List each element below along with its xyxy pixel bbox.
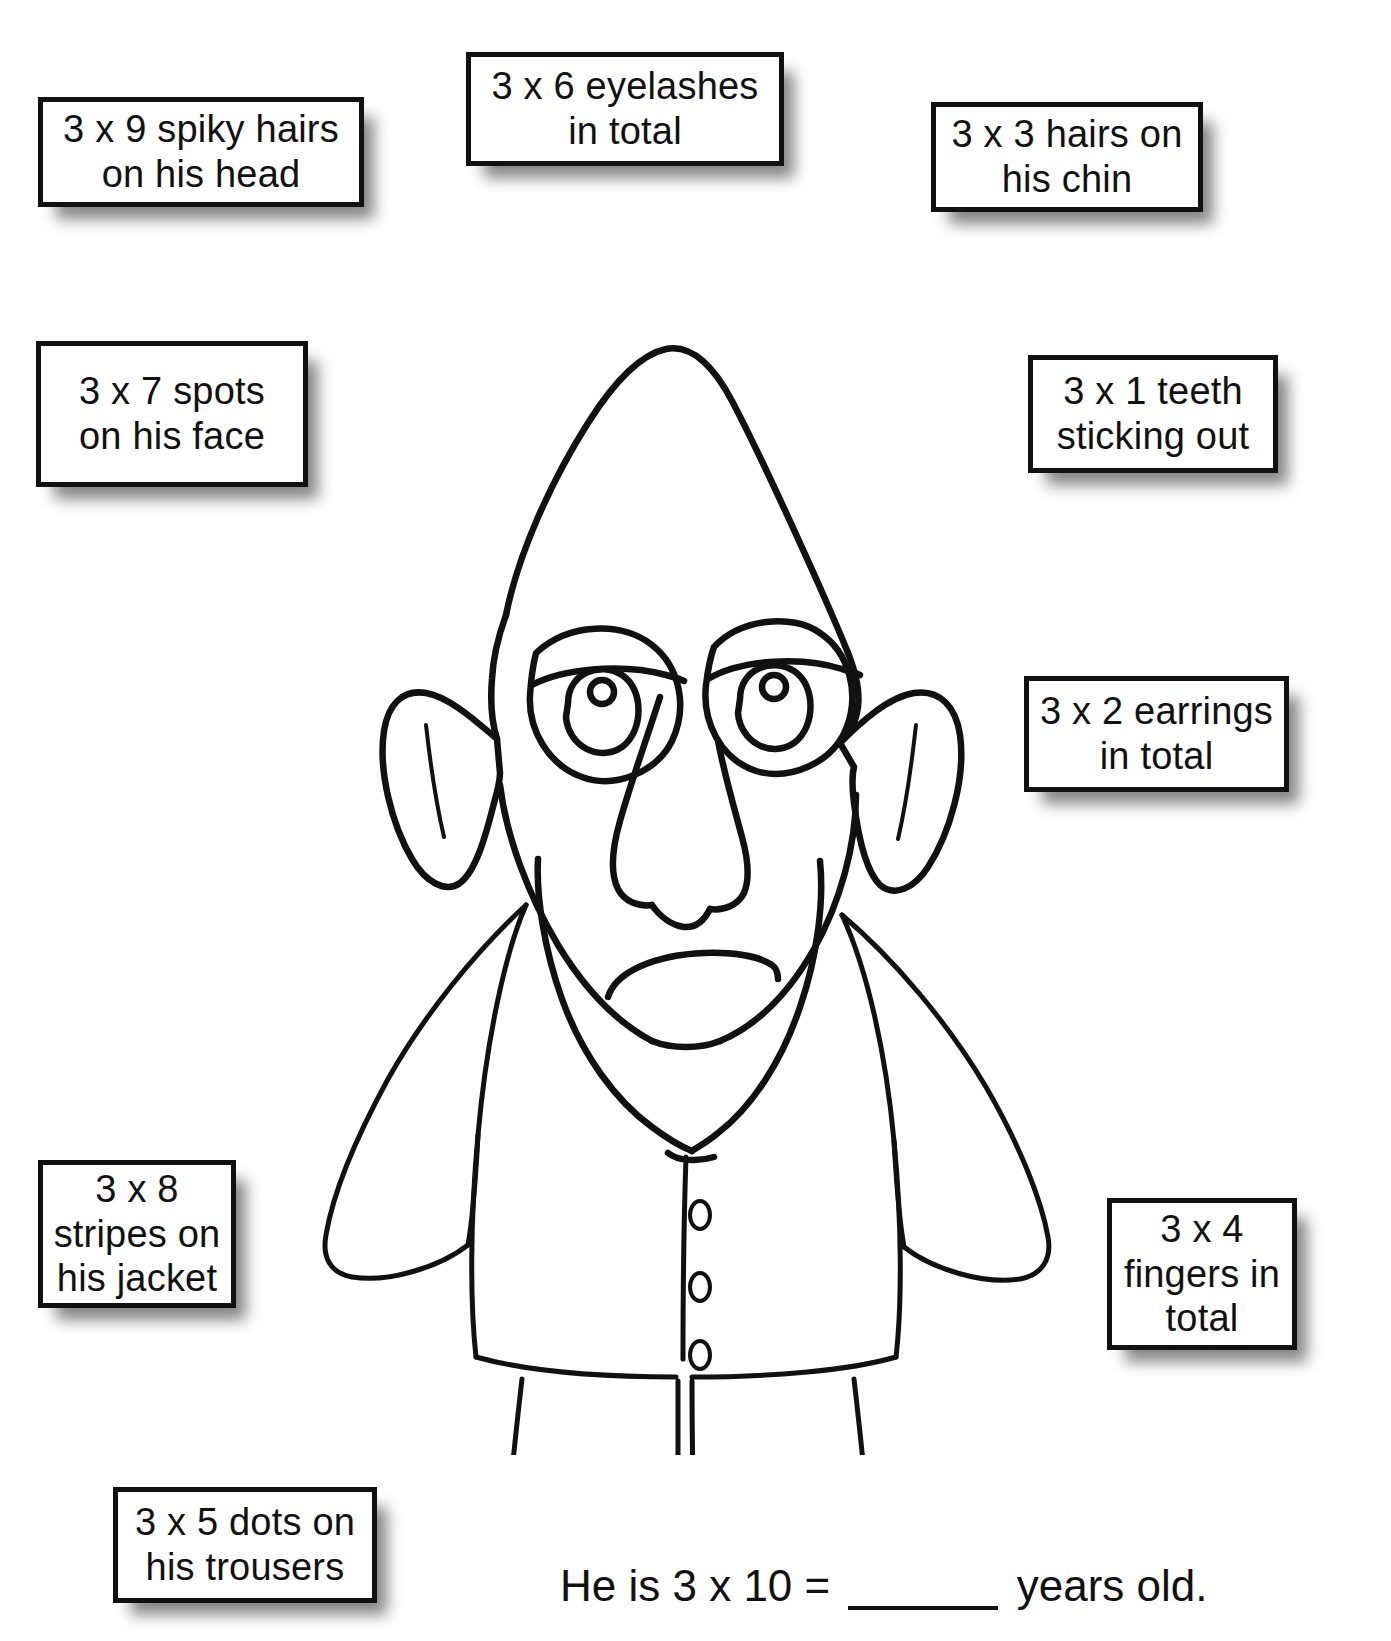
label-earrings: 3 x 2 earrings in total [1024,676,1289,792]
trouser-right-inner [692,1381,696,1455]
label-fingers-text: 3 x 4 fingers in total [1124,1207,1280,1341]
jacket-hem-left [476,1357,676,1377]
label-teeth-text: 3 x 1 teeth sticking out [1057,369,1250,459]
worksheet-page: 3 x 9 spiky hairs on his head 3 x 6 eyel… [0,0,1391,1641]
jacket-hem-right [692,1357,896,1377]
label-jacket-stripes: 3 x 8 stripes on his jacket [38,1160,236,1308]
label-fingers: 3 x 4 fingers in total [1107,1198,1297,1350]
label-spiky-hairs: 3 x 9 spiky hairs on his head [38,97,364,207]
age-answer-blank[interactable] [848,1570,998,1610]
collar-right [692,861,821,1151]
chin [652,1041,720,1047]
label-earrings-text: 3 x 2 earrings in total [1040,689,1273,779]
label-chin-hairs-text: 3 x 3 hairs on his chin [952,112,1183,202]
jacket-left-edge [472,905,526,1357]
head-outline [506,348,848,653]
button-placket [683,1157,686,1359]
age-question-prefix: He is 3 x 10 = [560,1561,842,1610]
head-left-contour [491,615,506,739]
label-chin-hairs: 3 x 3 hairs on his chin [931,102,1203,212]
mouth [608,953,778,997]
right-ear-inner [898,725,916,839]
jacket-button [690,1201,710,1229]
nose-base [652,905,710,927]
left-eye-pupil [590,680,614,704]
right-sleeve-outer [842,915,1049,1280]
label-spiky-hairs-text: 3 x 9 spiky hairs on his head [63,107,339,197]
left-ear-outline [383,692,500,886]
label-trouser-dots: 3 x 5 dots on his trousers [113,1487,377,1603]
right-eye-pupil [762,675,786,699]
label-face-spots-text: 3 x 7 spots on his face [79,369,265,459]
label-face-spots: 3 x 7 spots on his face [36,341,308,487]
left-sleeve-outer [325,905,526,1278]
trouser-left-outer [500,1379,522,1455]
left-ear-inner [426,725,444,837]
label-eyelashes: 3 x 6 eyelashes in total [466,52,784,166]
jacket-button [690,1341,710,1369]
label-eyelashes-text: 3 x 6 eyelashes in total [491,64,758,154]
age-question: He is 3 x 10 = years old. [560,1562,1320,1610]
label-trouser-dots-text: 3 x 5 dots on his trousers [135,1500,355,1590]
right-ear-outline [840,692,961,890]
jacket-button [690,1273,710,1301]
collar-left [538,859,692,1151]
monster-figure [300,255,1100,1455]
age-question-suffix: years old. [1004,1561,1207,1610]
trouser-right-outer [854,1379,876,1455]
monster-line-drawing [300,255,1100,1455]
label-jacket-stripes-text: 3 x 8 stripes on his jacket [54,1167,221,1301]
label-teeth: 3 x 1 teeth sticking out [1028,355,1278,473]
jacket-right-edge [842,915,900,1357]
